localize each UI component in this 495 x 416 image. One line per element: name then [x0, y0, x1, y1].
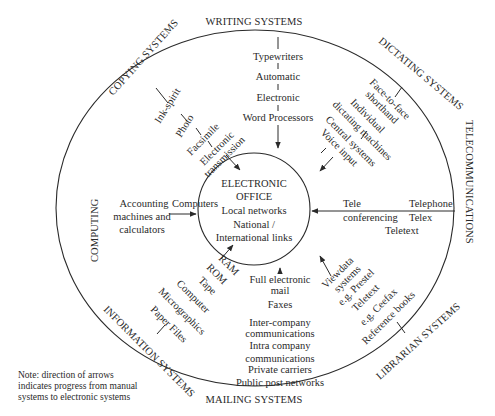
electronic-office: ELECTRONIC OFFICE Local networks Nationa… — [216, 178, 293, 243]
ink-spirit: Ink-spirit — [152, 86, 182, 125]
calculators: calculators — [119, 224, 164, 235]
conferencing: conferencing — [343, 212, 399, 223]
intra-communications: communications — [245, 353, 314, 364]
center-line-3: Local networks — [221, 205, 286, 216]
center-title-2: OFFICE — [236, 191, 272, 202]
copying-chain: Ink-spirit Photo Facsimile Electronic tr… — [152, 86, 247, 179]
center-title-1: ELECTRONIC — [221, 178, 286, 189]
writing-chain: Typewriters Automatic Electronic Word Pr… — [243, 37, 314, 148]
telephone: Telephone — [409, 198, 453, 209]
intra-company: Intra company — [250, 340, 312, 351]
dictating-arrow — [320, 157, 333, 171]
tele: Tele — [343, 198, 361, 209]
writing-systems-label: WRITING SYSTEMS — [206, 16, 303, 27]
copying-systems-label: COPYING SYSTEMS — [106, 17, 180, 97]
electronic: Electronic — [256, 92, 299, 103]
full-electronic: Full electronic — [250, 274, 311, 285]
computing-label: COMPUTING — [89, 198, 100, 262]
mail: mail — [271, 285, 290, 296]
machines-and: machines and — [113, 211, 171, 222]
computers: Computers — [172, 198, 218, 209]
electronic-office-diagram: ELECTRONIC OFFICE Local networks Nationa… — [0, 0, 495, 416]
librarian-arrow — [320, 256, 331, 276]
note: Note: direction of arrows indicates prog… — [18, 370, 178, 403]
note-line-3: systems to electronic systems — [18, 392, 178, 403]
public-post-networks: Public post networks — [236, 377, 324, 388]
accounting: Accounting — [120, 198, 170, 209]
telecommunications-label: TELECOMMUNICATIONS — [464, 120, 475, 244]
photo: Photo — [173, 112, 195, 139]
note-line-1: Note: direction of arrows — [18, 370, 178, 381]
teletext-telecom: Teletext — [385, 225, 419, 236]
typewriters: Typewriters — [253, 51, 303, 62]
private-carriers: Private carriers — [248, 364, 312, 375]
information-chain: Paper Files Micrographics Computer Tape … — [149, 245, 242, 345]
automatic: Automatic — [256, 71, 301, 82]
mailing-systems-label: MAILING SYSTEMS — [206, 394, 303, 405]
center-line-5: International links — [216, 232, 293, 243]
librarian-chain: Reference books e.g. Ceefax Teletext e.g… — [320, 254, 417, 346]
telecom-chain: Telephone Telex Teletext Tele conferenci… — [312, 198, 455, 236]
note-line-2: indicates progress from manual — [18, 381, 178, 392]
center-line-4: National / — [233, 219, 275, 230]
faxes: Faxes — [268, 299, 293, 310]
inter-company: Inter-company — [249, 317, 311, 328]
mailing-chain: Public post networks Private carriers In… — [236, 268, 324, 388]
word-processors: Word Processors — [243, 112, 314, 123]
telex: Telex — [409, 212, 433, 223]
dictating-chain: Face-to-face shorthand Individual dictat… — [319, 77, 413, 171]
inter-communications: communications — [245, 328, 314, 339]
